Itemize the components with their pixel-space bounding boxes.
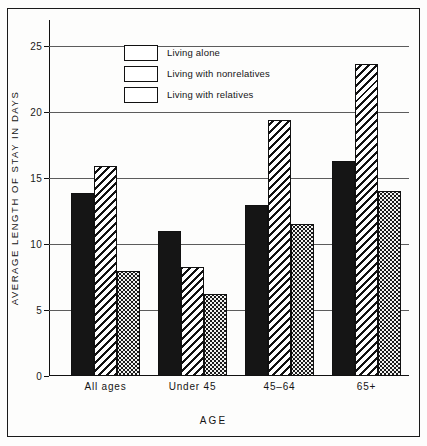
bar (355, 64, 378, 376)
legend-item: Living with relatives (124, 86, 270, 103)
legend-swatch-living-with-relatives (124, 87, 158, 103)
bar (71, 193, 94, 376)
y-tick-label: 0 (36, 371, 42, 382)
legend-label: Living with nonrelatives (167, 68, 270, 79)
x-tick-label: All ages (71, 381, 140, 392)
bar (245, 205, 268, 376)
legend: Living alone Living with nonrelatives Li… (124, 44, 270, 107)
plot-area: 0510152025 All agesUnder 4545–6465+ Livi… (49, 20, 409, 376)
y-tick-label: 15 (30, 173, 42, 184)
legend-swatch-living-with-nonrelatives (124, 66, 158, 82)
x-tick-label: 65+ (332, 381, 401, 392)
x-axis-title: AGE (0, 415, 427, 426)
bar (291, 224, 314, 376)
y-tick-mark (44, 46, 49, 47)
legend-label: Living with relatives (167, 89, 254, 100)
y-tick-mark (44, 310, 49, 311)
legend-item: Living with nonrelatives (124, 65, 270, 82)
bar (117, 271, 140, 376)
x-tick-label: Under 45 (158, 381, 227, 392)
bar (181, 267, 204, 376)
bar (94, 166, 117, 376)
legend-item: Living alone (124, 44, 270, 61)
y-tick-mark (44, 112, 49, 113)
x-tick-label: 45–64 (245, 381, 314, 392)
y-tick-label: 5 (36, 305, 42, 316)
y-tick-mark (44, 376, 49, 377)
bar (268, 120, 291, 376)
y-tick-label: 10 (30, 239, 42, 250)
y-tick-label: 20 (30, 107, 42, 118)
y-axis-title: AVERAGE LENGTH OF STAY IN DAYS (9, 91, 20, 306)
bar (158, 231, 181, 376)
y-tick-mark (44, 178, 49, 179)
y-tick-label: 25 (30, 41, 42, 52)
y-tick-mark (44, 244, 49, 245)
bar (332, 161, 355, 376)
legend-label: Living alone (167, 47, 220, 58)
chart-figure: AVERAGE LENGTH OF STAY IN DAYS AGE 05101… (0, 0, 427, 446)
bar (204, 294, 227, 376)
legend-swatch-living-alone (124, 45, 158, 61)
bar (378, 191, 401, 376)
bar-group: 65+ (332, 20, 401, 376)
